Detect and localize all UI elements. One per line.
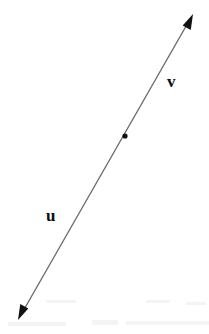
figure-background bbox=[0, 0, 209, 334]
vector-label-v: v bbox=[167, 73, 176, 90]
vector-label-u: u bbox=[46, 207, 55, 224]
marked-point bbox=[122, 133, 127, 138]
vector-line-diagram bbox=[0, 0, 209, 334]
figure-container: u v bbox=[0, 0, 209, 334]
